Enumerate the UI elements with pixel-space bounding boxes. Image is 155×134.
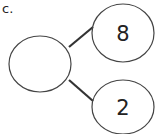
number-bond-diagram: 8 2: [0, 0, 155, 134]
part-bottom-value: 2: [116, 96, 129, 120]
whole-circle[interactable]: [9, 36, 71, 92]
part-top-value: 8: [116, 22, 129, 46]
connector-top: [69, 27, 93, 47]
connector-bottom: [69, 80, 93, 101]
